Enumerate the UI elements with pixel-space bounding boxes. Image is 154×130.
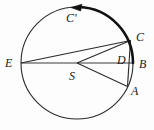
geometry-figure: E B C A D S C' [0,0,154,130]
arc-arrowhead-icon [71,4,82,11]
vertex-label-E: E [5,57,12,69]
vertex-label-B: B [139,58,146,70]
vertex-label-S: S [69,70,75,82]
vertex-label-D: D [117,54,126,66]
segment-E-C [21,41,131,64]
vertex-label-c-prime: C' [66,12,77,24]
figure-canvas [0,0,154,130]
vertex-label-C: C [136,31,144,43]
vertex-label-A: A [131,85,138,97]
